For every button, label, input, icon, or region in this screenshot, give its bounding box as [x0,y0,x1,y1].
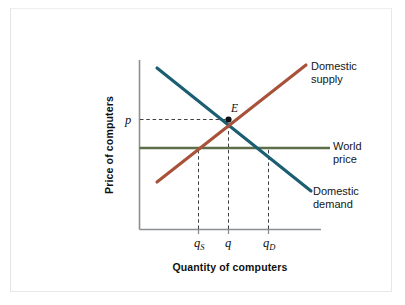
x-tick-label-qS: qS [194,236,205,252]
equilibrium-label: E [230,102,238,114]
x-tick-label-q-symbol: q [225,236,231,250]
x-tick-labels: qS q qD [194,236,276,252]
y-tick-label-p: p [124,113,131,127]
y-axis-title: Price of computers [103,96,115,194]
x-tick-label-qD-subscript: D [268,242,276,252]
series-label-world-price: World price [333,140,362,165]
world-price-label-line1: World [333,140,362,152]
domestic-demand-line [157,68,311,191]
domestic-demand-label-line1: Domestic [313,185,359,197]
guide-lines-group [140,120,269,230]
x-tick-label-qD: qD [263,236,276,252]
x-axis-title: Quantity of computers [172,261,287,273]
domestic-supply-label-line1: Domestic [311,60,357,72]
x-tick-label-qS-subscript: S [200,242,205,252]
world-price-label-line2: price [333,153,357,165]
domestic-supply-label-line2: supply [311,73,343,85]
supply-demand-figure: E p qS q qD Qua [0,0,405,305]
figure-page: E p qS q qD Qua [0,0,405,305]
x-tick-label-q: q [225,236,231,250]
axes-group [140,60,322,230]
series-label-domestic-demand: Domestic demand [313,185,359,210]
series-label-domestic-supply: Domestic supply [311,60,357,85]
domestic-demand-label-line2: demand [313,198,353,210]
chart-svg: E p qS q qD Qua [0,0,405,305]
domestic-supply-line [157,65,306,182]
equilibrium-point [225,116,231,122]
